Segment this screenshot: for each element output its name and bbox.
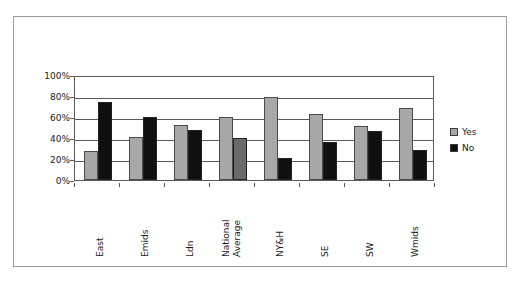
bar-no-sw (368, 131, 382, 180)
y-axis-tick-label: 100% (44, 71, 70, 82)
bar-no-ny-h (278, 158, 292, 180)
bar-group (210, 77, 255, 180)
bar-no-east (98, 102, 112, 180)
bar-group (345, 77, 390, 180)
bar-yes-ny-h (264, 97, 278, 180)
x-axis-tick-label: SE (320, 246, 330, 257)
x-axis-tick-mark (389, 183, 390, 187)
bar-yes-east (84, 151, 98, 180)
bar-group (390, 77, 435, 180)
x-axis-tick-label-line: Wmids (410, 226, 420, 257)
x-axis-tick-label: Wmids (410, 226, 420, 257)
chart-frame: 100%80%60%40%20%0% EastEmidsLdnNationalA… (13, 16, 507, 267)
x-axis: EastEmidsLdnNationalAverageNY&HSESWWmids (74, 183, 434, 263)
legend-swatch-icon (450, 128, 458, 136)
x-axis-tick-label: Emids (140, 230, 150, 257)
x-axis-tick-mark (299, 183, 300, 187)
x-axis-tick-label-line: SE (320, 246, 330, 257)
bar-group (75, 77, 120, 180)
y-axis: 100%80%60%40%20%0% (32, 70, 70, 187)
x-axis-tick-mark (74, 183, 75, 187)
x-axis-tick-label: NY&H (275, 231, 285, 257)
bar-yes-se (309, 114, 323, 180)
bar-no-se (323, 142, 337, 180)
y-axis-tick-mark (70, 181, 74, 182)
bar-no-national-average (233, 138, 247, 180)
x-axis-tick-label-line: NY&H (275, 231, 285, 257)
x-axis-tick-label: NationalAverage (221, 219, 243, 257)
chart-legend: YesNo (450, 124, 508, 156)
x-axis-tick-mark (434, 183, 435, 187)
legend-label: Yes (462, 127, 477, 137)
x-axis-tick-mark (209, 183, 210, 187)
bar-no-ldn (188, 130, 202, 180)
legend-item-no[interactable]: No (450, 140, 508, 156)
y-axis-tick-label: 0% (56, 176, 70, 187)
legend-item-yes[interactable]: Yes (450, 124, 508, 140)
x-axis-tick-label-line: Average (232, 219, 243, 257)
x-axis-tick-label-line: East (95, 238, 105, 257)
x-axis-tick-label: East (95, 238, 105, 257)
y-axis-tick-label: 20% (50, 155, 70, 166)
bar-group (300, 77, 345, 180)
x-axis-tick-mark (344, 183, 345, 187)
bar-group (255, 77, 300, 180)
x-axis-tick-label: Ldn (185, 241, 195, 257)
x-axis-tick-label-line: Ldn (185, 241, 195, 257)
bar-yes-ldn (174, 125, 188, 180)
bar-group (165, 77, 210, 180)
x-axis-tick-label-line: National (221, 219, 232, 257)
bar-yes-emids (129, 137, 143, 180)
bar-no-wmids (413, 150, 427, 180)
bar-yes-national-average (219, 117, 233, 180)
x-axis-tick-mark (119, 183, 120, 187)
bar-yes-sw (354, 126, 368, 180)
y-axis-tick-label: 80% (50, 92, 70, 103)
x-axis-tick-label-line: SW (365, 242, 375, 257)
x-axis-tick-label: SW (365, 242, 375, 257)
y-axis-tick-label: 60% (50, 113, 70, 124)
x-axis-tick-mark (254, 183, 255, 187)
bar-group (120, 77, 165, 180)
legend-swatch-icon (450, 144, 458, 152)
plot-area (74, 76, 434, 181)
y-axis-tick-label: 40% (50, 134, 70, 145)
bar-no-emids (143, 117, 157, 180)
x-axis-tick-label-line: Emids (140, 230, 150, 257)
x-axis-tick-mark (164, 183, 165, 187)
legend-label: No (462, 143, 474, 153)
bar-yes-wmids (399, 108, 413, 180)
